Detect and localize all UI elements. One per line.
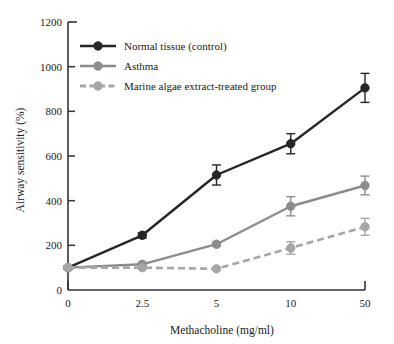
- data-point-marker: [138, 263, 146, 271]
- x-axis-tick-label: 2.5: [135, 297, 149, 309]
- y-axis-tick-label: 1200: [40, 16, 63, 28]
- data-point-marker: [361, 181, 369, 189]
- data-point-marker: [212, 240, 220, 248]
- x-axis-tick-label: 0: [65, 297, 71, 309]
- x-axis-title: Methacholine (mg/ml): [170, 324, 274, 337]
- legend-label: Marine algae extract-treated group: [124, 80, 277, 92]
- legend-label: Normal tissue (control): [124, 40, 227, 53]
- y-axis-tick-label: 200: [46, 239, 63, 251]
- y-axis-title: Airway sensitivity (%): [14, 107, 27, 212]
- legend-marker: [94, 62, 102, 70]
- airway-sensitivity-line-chart: 020040060080010001200 02.551050 Normal t…: [0, 0, 394, 344]
- data-point-marker: [212, 171, 220, 179]
- y-axis-tick-label: 800: [46, 105, 63, 117]
- data-point-marker: [361, 223, 369, 231]
- data-point-marker: [138, 231, 146, 239]
- legend-label: Asthma: [124, 60, 158, 72]
- y-axis-tick-label: 400: [46, 195, 63, 207]
- y-axis-tick-label: 600: [46, 150, 63, 162]
- x-axis-tick-label: 50: [360, 297, 372, 309]
- data-point-marker: [361, 84, 369, 92]
- x-axis-tick-label: 10: [285, 297, 297, 309]
- legend-marker: [94, 82, 102, 90]
- chart-container: 020040060080010001200 02.551050 Normal t…: [0, 0, 394, 344]
- y-axis-tick-label: 0: [57, 284, 63, 296]
- data-point-marker: [212, 265, 220, 273]
- data-point-marker: [287, 244, 295, 252]
- data-point-marker: [287, 140, 295, 148]
- x-axis-tick-label: 5: [214, 297, 220, 309]
- y-axis-tick-label: 1000: [40, 61, 63, 73]
- data-point-marker: [287, 202, 295, 210]
- data-point-marker: [64, 263, 72, 271]
- legend-marker: [94, 42, 102, 50]
